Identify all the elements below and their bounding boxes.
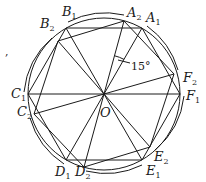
angle-label: 15° — [131, 60, 151, 73]
rotated-hexagons-diagram: 15° , A1 A2 B1 B2 C1 C2 D1 — [0, 0, 206, 182]
label-C1: C1 — [11, 86, 26, 103]
label-F1: F1 — [185, 88, 200, 105]
label-A2: A2 — [126, 5, 141, 22]
stray-comma: , — [5, 45, 9, 58]
label-A1: A1 — [145, 10, 160, 27]
label-B2: B2 — [39, 16, 55, 33]
label-F2: F2 — [182, 70, 197, 87]
label-E2: E2 — [153, 149, 169, 166]
label-D2: D2 — [74, 164, 91, 181]
label-D1: D1 — [54, 164, 71, 181]
label-O: O — [100, 105, 111, 120]
angle-leader-line — [118, 60, 130, 63]
angle-arc-15deg — [115, 56, 124, 60]
label-B1: B1 — [61, 4, 77, 21]
vertex-labels: A1 A2 B1 B2 C1 C2 D1 D2 E1 E2 F1 — [11, 4, 200, 181]
label-C2: C2 — [17, 104, 32, 121]
label-E1: E1 — [145, 163, 161, 180]
